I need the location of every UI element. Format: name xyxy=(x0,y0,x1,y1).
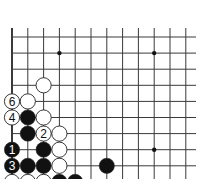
star-point xyxy=(152,148,156,152)
black-stone: 3 xyxy=(4,158,19,173)
stone-disc xyxy=(20,94,35,109)
go-board-diagram: 64213 xyxy=(0,0,201,179)
stone-disc xyxy=(4,174,19,179)
stone-disc xyxy=(20,174,35,179)
stone-disc xyxy=(99,158,114,173)
black-stone xyxy=(36,158,51,173)
stone-disc xyxy=(52,142,67,157)
black-stone xyxy=(52,174,67,179)
black-stone xyxy=(36,142,51,157)
white-stone xyxy=(52,126,67,141)
stone-disc xyxy=(52,174,67,179)
stone-disc xyxy=(52,158,67,173)
black-stone xyxy=(20,158,35,173)
black-stone xyxy=(20,110,35,125)
move-number-label: 1 xyxy=(9,143,16,157)
black-stone xyxy=(68,174,83,179)
stone-disc xyxy=(68,174,83,179)
stone-disc xyxy=(36,174,51,179)
white-stone xyxy=(4,174,19,179)
white-stone xyxy=(52,158,67,173)
move-number-label: 6 xyxy=(9,95,16,109)
move-number-label: 4 xyxy=(9,111,16,125)
white-stone xyxy=(36,78,51,93)
black-stone xyxy=(20,126,35,141)
stone-disc xyxy=(20,126,35,141)
stone-disc xyxy=(20,158,35,173)
stone-disc xyxy=(52,126,67,141)
stone-disc xyxy=(20,110,35,125)
white-stone xyxy=(52,142,67,157)
stone-disc xyxy=(36,110,51,125)
white-stone xyxy=(36,174,51,179)
black-stone: 1 xyxy=(4,142,19,157)
star-point xyxy=(152,51,156,55)
stone-disc xyxy=(36,158,51,173)
white-stone xyxy=(20,174,35,179)
stone-disc xyxy=(36,78,51,93)
black-stone xyxy=(99,158,114,173)
white-stone xyxy=(20,94,35,109)
star-point xyxy=(57,51,61,55)
white-stone xyxy=(36,110,51,125)
white-stone: 6 xyxy=(4,94,19,109)
move-number-label: 3 xyxy=(9,159,16,173)
white-stone: 4 xyxy=(4,110,19,125)
stone-disc xyxy=(36,142,51,157)
white-stone: 2 xyxy=(36,126,51,141)
move-number-label: 2 xyxy=(40,127,47,141)
